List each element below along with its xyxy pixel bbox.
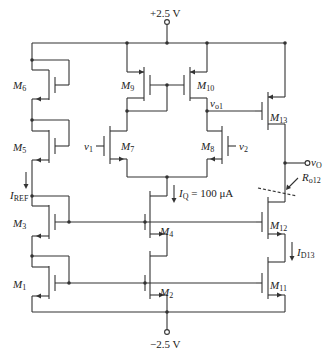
label-m5: M5 xyxy=(13,142,26,155)
label-m4: M4 xyxy=(160,226,173,239)
label-v1: v1 xyxy=(84,141,93,154)
label-m12: M12 xyxy=(270,220,287,233)
transistor-m1-symbol xyxy=(32,256,69,312)
label-m3: M3 xyxy=(13,218,26,231)
label-m11: M11 xyxy=(270,280,287,293)
label-m9: M9 xyxy=(121,80,134,93)
ro12-cut-line xyxy=(258,188,297,196)
label-m6: M6 xyxy=(13,80,26,93)
label-vo1: vo1 xyxy=(210,98,223,111)
negative-supply-label: −2.5 V xyxy=(150,339,180,350)
transistor-m9-symbol xyxy=(127,43,184,111)
positive-supply-terminal xyxy=(165,20,170,43)
transistor-m6-symbol xyxy=(32,43,69,120)
label-ro12: Ro12 xyxy=(302,172,321,185)
transistor-m2-symbol xyxy=(145,251,167,312)
positive-supply-label: +2.5 V xyxy=(150,8,180,19)
label-m1: M1 xyxy=(13,279,26,292)
transistor-m3-symbol xyxy=(32,196,69,256)
label-m13: M13 xyxy=(270,112,287,125)
circuit-schematic xyxy=(0,0,331,355)
output-terminal xyxy=(285,161,310,166)
label-iq: IQ = 100 μA xyxy=(179,188,233,201)
label-vo: vO xyxy=(311,157,322,170)
transistor-m4-symbol xyxy=(145,191,167,256)
negative-supply-terminal xyxy=(165,312,170,334)
label-id13: ID13 xyxy=(297,247,314,260)
label-m2: M2 xyxy=(160,287,173,300)
label-m7: M7 xyxy=(121,141,134,154)
label-v2: v2 xyxy=(239,141,248,154)
transistor-m5-symbol xyxy=(32,120,69,196)
label-iref: IREF xyxy=(10,190,28,203)
transistor-m10-symbol xyxy=(184,43,207,111)
label-m10: M10 xyxy=(197,80,214,93)
label-m8: M8 xyxy=(201,141,214,154)
